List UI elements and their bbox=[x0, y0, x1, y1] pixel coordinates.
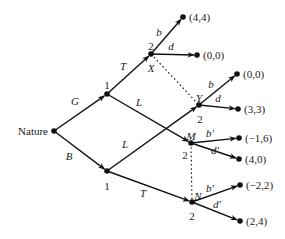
terminal-node bbox=[236, 156, 242, 162]
edge-M-t5 bbox=[191, 138, 236, 143]
action-label: b′ bbox=[206, 127, 215, 139]
nature-label: Nature bbox=[18, 125, 48, 137]
edge-nature-g1 bbox=[54, 96, 104, 131]
action-label: b bbox=[156, 26, 162, 38]
node-name-label: X bbox=[147, 62, 156, 74]
information-set-m-n bbox=[191, 143, 192, 202]
edge-X-t2 bbox=[151, 54, 194, 55]
payoff-label: (0,0) bbox=[203, 49, 224, 62]
action-label: b bbox=[208, 78, 214, 90]
player-label: 2 bbox=[189, 210, 195, 222]
player-label: 1 bbox=[104, 180, 110, 192]
edge-nature-b1 bbox=[54, 131, 104, 169]
terminal-node bbox=[194, 52, 200, 58]
terminal-node bbox=[237, 218, 243, 224]
action-label: d′ bbox=[213, 198, 222, 210]
action-label: B bbox=[66, 150, 73, 162]
edge-b1-N bbox=[107, 171, 189, 201]
player-label: 2 bbox=[182, 149, 188, 161]
action-label: L bbox=[135, 96, 142, 108]
decision-node-g1 bbox=[104, 91, 110, 97]
payoff-label: (3,3) bbox=[244, 103, 265, 116]
decision-node-b1 bbox=[104, 168, 110, 174]
edge-g1-M bbox=[107, 94, 188, 141]
decision-node-x bbox=[148, 51, 154, 57]
information-set-x-y bbox=[151, 54, 199, 105]
player-label: 2 bbox=[148, 40, 154, 52]
payoff-label: (−2,2) bbox=[246, 179, 274, 192]
node-name-label: N bbox=[193, 190, 202, 202]
terminal-node bbox=[235, 106, 241, 112]
nature-node bbox=[51, 128, 57, 134]
terminal-node bbox=[237, 182, 243, 188]
edge-Y-t4 bbox=[199, 105, 235, 109]
action-label: T bbox=[120, 60, 127, 72]
game-tree-diagram: GBTLLTbdbdb′d′b′d′Nature112X2Y2M2N(4,4)(… bbox=[0, 0, 285, 239]
player-label: 2 bbox=[197, 113, 203, 125]
node-name-label: M bbox=[185, 130, 196, 142]
action-label: b′ bbox=[206, 182, 215, 194]
action-label: G bbox=[71, 95, 79, 107]
terminal-node bbox=[180, 14, 186, 20]
action-label: d bbox=[168, 40, 174, 52]
payoff-label: (0,0) bbox=[243, 68, 264, 81]
terminal-node bbox=[236, 135, 242, 141]
payoff-label: (−1,6) bbox=[245, 132, 273, 145]
payoff-label: (4,4) bbox=[189, 11, 210, 24]
action-label: T bbox=[140, 187, 147, 199]
action-label: L bbox=[121, 138, 128, 150]
nodes bbox=[51, 14, 243, 224]
player-label: 1 bbox=[104, 79, 110, 91]
action-label: d bbox=[215, 92, 221, 104]
edge-g1-X bbox=[107, 56, 149, 94]
information-set-lines bbox=[151, 54, 199, 202]
payoff-label: (4,0) bbox=[245, 153, 266, 166]
action-label: d′ bbox=[211, 144, 220, 156]
terminal-node bbox=[234, 71, 240, 77]
payoff-label: (2,4) bbox=[246, 215, 267, 228]
labels: GBTLLTbdbdb′d′b′d′Nature112X2Y2M2N(4,4)(… bbox=[18, 11, 274, 228]
